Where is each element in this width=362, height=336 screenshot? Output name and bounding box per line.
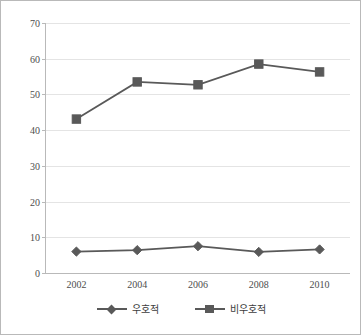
series-lines-and-markers	[46, 23, 350, 273]
x-tick-label-2008: 2008	[249, 279, 269, 290]
data-point-s0-2010[interactable]	[315, 245, 324, 254]
data-point-s1-2006[interactable]	[194, 81, 202, 89]
x-tick-label-2006: 2006	[188, 279, 208, 290]
y-tick-label-70: 70	[30, 18, 40, 29]
data-point-s0-2002[interactable]	[72, 247, 81, 256]
data-point-s1-2008[interactable]	[255, 60, 263, 68]
y-tick-label-60: 60	[30, 53, 40, 64]
data-point-s1-2004[interactable]	[133, 78, 141, 86]
data-point-s0-2004[interactable]	[133, 246, 142, 255]
legend-label-series-1: 비우호적	[230, 301, 266, 316]
y-tick-label-0: 0	[35, 268, 40, 279]
chart-frame: 010203040506070 20022004200620082010 우호적…	[0, 0, 361, 335]
legend-item-series-0[interactable]: 우호적	[97, 301, 159, 316]
y-tick-label-40: 40	[30, 125, 40, 136]
chart-legend: 우호적 비우호적	[1, 301, 362, 316]
data-point-s1-2010[interactable]	[315, 68, 323, 76]
y-tick-label-10: 10	[30, 232, 40, 243]
data-point-s0-2008[interactable]	[254, 247, 263, 256]
plot-area: 010203040506070 20022004200620082010	[45, 23, 350, 274]
data-point-s1-2002[interactable]	[72, 115, 80, 123]
x-tick-label-2004: 2004	[127, 279, 147, 290]
y-tick-mark-0	[42, 273, 46, 274]
y-tick-label-50: 50	[30, 89, 40, 100]
legend-marker-diamond-icon	[97, 304, 127, 314]
legend-marker-square-icon	[195, 304, 225, 314]
legend-item-series-1[interactable]: 비우호적	[195, 301, 266, 316]
series-line-1	[76, 64, 319, 119]
x-tick-label-2002: 2002	[66, 279, 86, 290]
y-tick-label-30: 30	[30, 160, 40, 171]
x-tick-label-2010: 2010	[310, 279, 330, 290]
legend-label-series-0: 우호적	[132, 301, 159, 316]
y-tick-label-20: 20	[30, 196, 40, 207]
data-point-s0-2006[interactable]	[193, 242, 202, 251]
